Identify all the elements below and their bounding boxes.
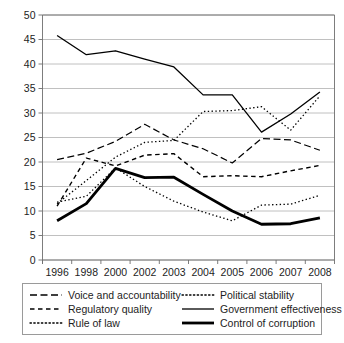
series-line xyxy=(57,168,320,224)
x-axis-tick-label: 2005 xyxy=(221,266,245,278)
series-line xyxy=(57,124,320,163)
series-line xyxy=(57,36,320,133)
line-chart: 05101520253035404550 1996199820002002200… xyxy=(0,0,344,343)
x-axis-tick-label: 2004 xyxy=(191,266,215,278)
legend-label: Political stability xyxy=(220,290,294,301)
legend-line-swatch-icon xyxy=(29,290,63,300)
x-axis-tick-label: 1996 xyxy=(45,266,69,278)
y-axis-tick-label: 45 xyxy=(24,33,36,45)
y-axis-tick-label: 30 xyxy=(24,107,36,119)
x-axis-ticks xyxy=(43,260,335,264)
legend-entry[interactable]: Government effectiveness xyxy=(181,304,329,315)
x-axis-tick-labels: 1996199820002002200320042005200620072008 xyxy=(45,266,331,278)
legend-entry[interactable]: Rule of law xyxy=(29,318,181,329)
x-axis-tick-label: 2000 xyxy=(104,266,128,278)
chart-legend: Voice and accountabilityPolitical stabil… xyxy=(22,283,322,335)
plot-area: 05101520253035404550 1996199820002002200… xyxy=(0,0,344,280)
legend-label: Voice and accountability xyxy=(68,290,181,301)
y-axis-tick-labels: 05101520253035404550 xyxy=(24,9,43,266)
legend-entry[interactable]: Voice and accountability xyxy=(29,290,181,301)
legend-label: Government effectiveness xyxy=(220,304,342,315)
y-axis-tick-label: 10 xyxy=(24,205,36,217)
legend-entry[interactable]: Control of corruption xyxy=(181,318,329,329)
y-axis-tick-label: 50 xyxy=(24,9,36,21)
x-axis-tick-label: 2007 xyxy=(279,266,303,278)
legend-label: Regulatory quality xyxy=(68,304,152,315)
legend-line-swatch-icon xyxy=(181,318,215,328)
legend-entry[interactable]: Regulatory quality xyxy=(29,304,181,315)
series-line xyxy=(57,168,320,221)
y-axis-tick-label: 35 xyxy=(24,82,36,94)
legend-label: Rule of law xyxy=(68,318,120,329)
legend-line-swatch-icon xyxy=(29,304,63,314)
series-line xyxy=(57,96,320,204)
x-axis-tick-label: 1998 xyxy=(75,266,99,278)
legend-entry[interactable]: Political stability xyxy=(181,290,329,301)
x-axis-tick-label: 2002 xyxy=(133,266,157,278)
y-axis-tick-label: 5 xyxy=(30,229,36,241)
x-axis-tick-label: 2006 xyxy=(250,266,274,278)
x-axis-tick-label: 2003 xyxy=(162,266,186,278)
legend-line-swatch-icon xyxy=(29,318,63,328)
x-axis-tick-label: 2008 xyxy=(308,266,332,278)
y-axis-tick-label: 15 xyxy=(24,180,36,192)
series-line xyxy=(57,154,320,206)
legend-label: Control of corruption xyxy=(220,318,315,329)
legend-line-swatch-icon xyxy=(181,304,215,314)
y-axis-tick-label: 20 xyxy=(24,156,36,168)
y-axis-tick-label: 40 xyxy=(24,58,36,70)
y-axis-tick-label: 0 xyxy=(30,254,36,266)
legend-line-swatch-icon xyxy=(181,290,215,300)
y-axis-tick-label: 25 xyxy=(24,131,36,143)
